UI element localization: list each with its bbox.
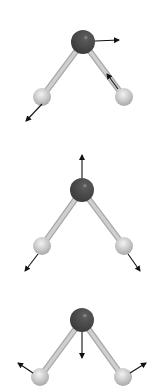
water-vibrational-modes-figure [0, 0, 157, 390]
mode-symmetric-stretch [25, 155, 140, 271]
hydrogen-atom [33, 237, 51, 255]
oxygen-atom [70, 308, 94, 332]
molecule-diagram [0, 0, 157, 390]
displacement-arrow-icon [95, 40, 119, 41]
oxygen-atom [70, 178, 94, 202]
hydrogen-atom [115, 88, 133, 106]
displacement-arrow-icon [128, 254, 140, 271]
displacement-arrow-icon [25, 254, 38, 271]
mode-asymmetric-stretch [26, 30, 133, 121]
displacement-arrow-icon [130, 363, 146, 373]
hydrogen-atom [33, 88, 51, 106]
displacement-arrow-icon [18, 363, 33, 373]
mode-bending [18, 308, 146, 386]
displacement-arrow-icon [26, 104, 42, 121]
displacement-arrow-icon [107, 74, 118, 89]
hydrogen-atom [114, 368, 132, 386]
hydrogen-atom [31, 368, 49, 386]
oxygen-atom [71, 30, 95, 54]
hydrogen-atom [115, 237, 133, 255]
